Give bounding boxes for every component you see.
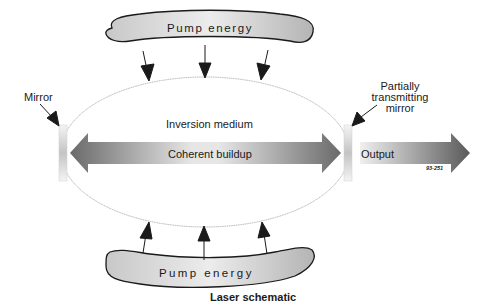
mirror-label: Mirror [24,91,53,103]
top-pump-label: Pump energy [167,22,253,34]
inversion-medium-label: Inversion medium [166,118,253,130]
figure-number: 93-251 [426,165,443,171]
partial-mirror-label-line-3: mirror [360,103,440,114]
diagram-caption: Laser schematic [210,291,296,303]
left-mirror [59,125,67,181]
coherent-buildup-label: Coherent buildup [168,148,252,160]
partial-mirror [344,125,352,181]
bottom-pump-label: Pump energy [159,267,254,279]
output-label: Output [361,148,394,160]
partial-mirror-label: Partially transmitting mirror [360,81,440,114]
mirror-pointer-arrow [40,104,59,126]
top-pump-arrows [141,45,270,81]
bottom-pump-arrows [140,222,270,260]
